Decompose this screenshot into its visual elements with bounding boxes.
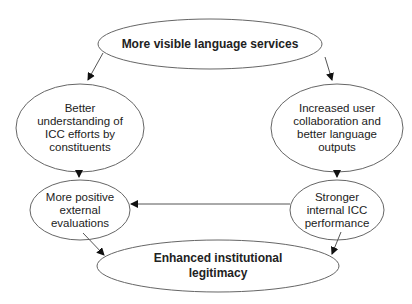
node-bottom-line-1: Enhanced institutional	[154, 251, 283, 266]
node-right-upper-line-1: Increased user	[299, 102, 375, 115]
node-right-upper-line-3: better language	[297, 128, 377, 141]
node-right-lower: Stronger internal ICC performance	[290, 186, 384, 234]
edge-top-to-left-upper	[88, 53, 103, 80]
node-bottom-line-2: legitimacy	[189, 266, 248, 281]
node-left-upper-line-2: understanding of	[37, 115, 123, 128]
node-left-lower-line-2: external	[60, 204, 101, 217]
node-right-lower-line-2: internal ICC	[307, 204, 368, 217]
node-right-lower-line-1: Stronger	[315, 191, 359, 204]
node-left-upper-line-4: constituents	[49, 141, 110, 154]
node-left-upper-line-3: ICC efforts by	[45, 128, 115, 141]
node-bottom: Enhanced institutional legitimacy	[118, 250, 318, 282]
node-right-upper-line-4: outputs	[318, 141, 356, 154]
node-right-lower-line-3: performance	[305, 217, 370, 230]
node-right-upper-line-2: collaboration and	[293, 115, 381, 128]
node-left-lower: More positive external evaluations	[30, 186, 130, 234]
node-top: More visible language services	[98, 34, 322, 54]
edge-left-lower-to-bottom	[83, 233, 104, 255]
node-left-lower-line-1: More positive	[46, 191, 114, 204]
edge-right-lower-to-bottom	[332, 232, 341, 254]
node-left-upper: Better understanding of ICC efforts by c…	[20, 96, 140, 160]
node-left-lower-line-3: evaluations	[51, 217, 109, 230]
node-top-label: More visible language services	[122, 37, 299, 52]
edge-top-to-right-upper	[325, 57, 332, 80]
node-left-upper-line-1: Better	[65, 102, 96, 115]
node-right-upper: Increased user collaboration and better …	[277, 96, 397, 160]
